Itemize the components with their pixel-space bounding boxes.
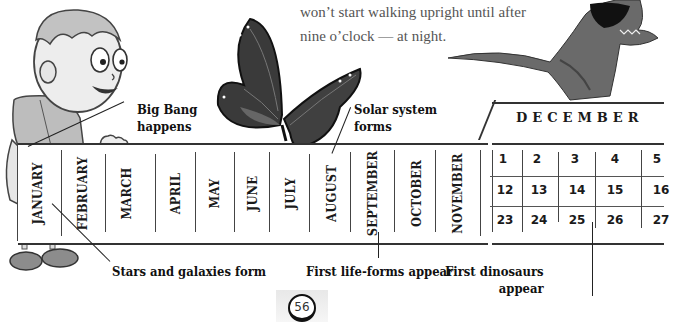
month-october: OCTOBER <box>398 150 434 236</box>
month-july: JULY <box>272 150 308 236</box>
calendar-day: 23 <box>490 213 520 227</box>
month-february: FEBRUARY <box>64 150 100 236</box>
month-divider <box>350 152 351 232</box>
page-number: 56 <box>288 294 316 322</box>
december-title: DECEMBER <box>516 110 644 125</box>
calendar-col-line <box>558 152 559 222</box>
calendar-day: 24 <box>524 213 554 227</box>
calendar-day: 12 <box>490 183 520 197</box>
calendar-day: 2 <box>522 152 552 166</box>
month-divider <box>155 154 156 232</box>
month-august: AUGUST <box>314 150 350 236</box>
annotation-first-dinosaurs: First dinosaurs appear <box>445 263 544 297</box>
month-march: MARCH <box>108 150 144 236</box>
month-divider <box>394 150 395 232</box>
month-divider <box>105 154 106 232</box>
calendar-day: 14 <box>562 183 592 197</box>
first-life-pointer <box>378 232 379 258</box>
dinosaur-illustration <box>440 0 664 105</box>
calendar-day: 25 <box>562 213 592 227</box>
calendar-day: 15 <box>600 183 630 197</box>
calendar-day: 27 <box>646 213 674 227</box>
annotation-big-bang: Big Bang happens <box>137 101 197 135</box>
month-june: JUNE <box>234 150 270 236</box>
month-april: APRIL <box>158 150 194 236</box>
month-may: MAY <box>196 150 232 236</box>
calendar-row-line <box>490 176 664 177</box>
month-divider <box>269 152 270 232</box>
first-dinosaurs-pointer <box>592 222 593 296</box>
annotation-stars-galaxies: Stars and galaxies form <box>112 263 266 280</box>
calendar-row-line <box>490 206 664 207</box>
month-divider <box>61 150 62 236</box>
calendar-day: 16 <box>646 183 674 197</box>
month-divider <box>309 154 310 232</box>
annotation-first-life: First life-forms appear <box>306 263 453 280</box>
calendar-col-line <box>595 152 596 228</box>
month-january: JANUARY <box>20 150 56 236</box>
month-divider <box>435 150 436 232</box>
calendar-day: 5 <box>642 152 672 166</box>
calendar-day: 3 <box>560 152 590 166</box>
calendar-day: 26 <box>600 213 630 227</box>
calendar-day: 4 <box>600 152 630 166</box>
calendar-day: 1 <box>488 152 518 166</box>
strip-left-edge <box>17 143 18 241</box>
month-november: NOVEMBER <box>440 150 476 236</box>
month-divider <box>480 150 481 236</box>
calendar-day: 13 <box>524 183 554 197</box>
annotation-solar-system: Solar system forms <box>354 101 437 135</box>
month-september: SEPTEMBER <box>354 150 390 236</box>
